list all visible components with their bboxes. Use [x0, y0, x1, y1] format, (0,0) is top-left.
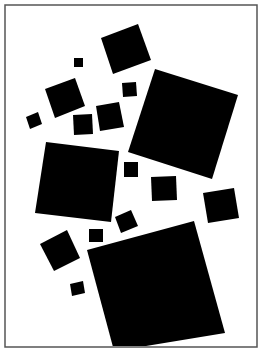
tiny-square-top: [74, 58, 83, 67]
abstract-artwork: [0, 0, 261, 355]
tiny-square-bottom-center: [89, 229, 103, 242]
small-square-upper: [122, 82, 137, 97]
large-left-square: [35, 142, 119, 222]
small-square-center: [124, 162, 138, 177]
right-square: [203, 188, 239, 223]
small-square-mid-left: [73, 114, 93, 135]
small-square-right-center: [151, 176, 177, 201]
mid-square: [96, 102, 124, 131]
